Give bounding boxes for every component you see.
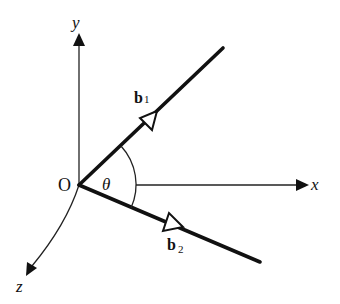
z-axis-label: z — [15, 277, 23, 296]
b1-label: b1 — [134, 89, 149, 106]
angle-theta-label: θ — [102, 175, 110, 194]
x-axis: x — [136, 175, 319, 194]
angle-arc — [121, 146, 136, 208]
vector-angle-diagram: y x z b1 b2 θ O — [0, 0, 340, 304]
z-axis: z — [15, 185, 79, 296]
origin-label: O — [58, 175, 71, 195]
z-axis-arrow-icon — [26, 262, 37, 276]
vector-b1: b1 — [79, 48, 223, 185]
y-axis-arrow-icon — [73, 33, 85, 46]
y-axis-label: y — [70, 13, 80, 32]
x-axis-label: x — [310, 175, 319, 194]
vector-b2: b2 — [79, 185, 260, 262]
y-axis: y — [70, 13, 85, 185]
x-axis-arrow-icon — [296, 179, 309, 191]
b1-arrowhead-icon — [140, 111, 157, 130]
b2-arrowhead-icon — [163, 213, 183, 231]
b2-label: b2 — [167, 236, 183, 255]
